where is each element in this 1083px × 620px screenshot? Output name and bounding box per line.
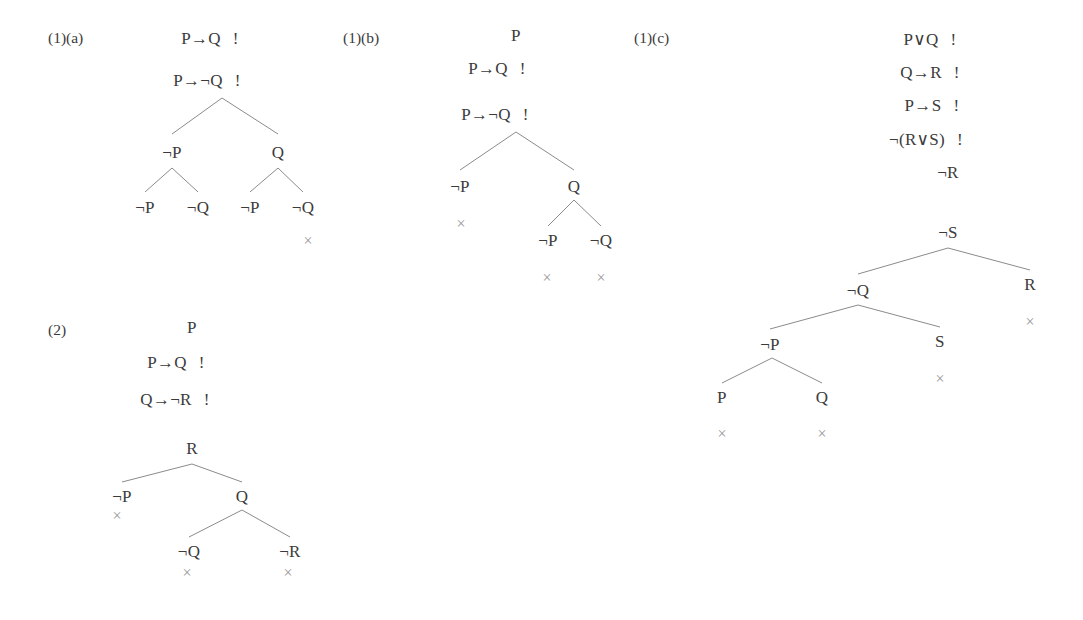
section-label-1a: (1)(a) [48, 30, 83, 46]
branch-closed-x-icon: × [542, 270, 551, 286]
premise-text: P→S [905, 96, 942, 115]
branch-line [516, 132, 574, 170]
premise-text: Q→R [900, 63, 942, 82]
branch-line [172, 98, 222, 134]
premise-text: P [511, 26, 521, 45]
tree-node-1c-3: S [935, 333, 945, 350]
tree-node-1b-2: ¬P [538, 232, 558, 249]
branch-closed-x-icon: × [717, 426, 726, 442]
branch-closed-x-icon: × [1025, 314, 1034, 330]
tree-node-1b-1: Q [568, 178, 581, 195]
section-label-2: (2) [48, 322, 66, 338]
branch-line [858, 305, 940, 327]
premise-text: R [186, 439, 198, 458]
tree-node-1a-4: ¬P [240, 199, 260, 216]
tree-node-1a-1: Q [272, 144, 285, 161]
branch-line [242, 510, 290, 537]
premise-1b-0: P [511, 27, 521, 44]
decomposed-flag: ! [204, 391, 210, 408]
decomposed-flag: ! [233, 30, 239, 47]
truth-tree-worksheet: (1)(a)P→Q!P→¬Q!¬PQ¬P¬Q¬P¬Q×(1)(b)PP→Q!P→… [0, 0, 1083, 620]
branch-line [172, 168, 198, 192]
premise-text: ¬R [937, 163, 959, 182]
premise-2-2: Q→¬R! [140, 391, 209, 408]
branch-line [460, 132, 516, 170]
branch-line [192, 464, 242, 482]
tree-branch-lines [0, 0, 1083, 620]
decomposed-flag: ! [235, 72, 241, 89]
premise-1a-1: P→¬Q! [173, 72, 241, 89]
branch-line [145, 168, 172, 192]
premise-text: Q→¬R [140, 390, 191, 409]
tree-node-1a-2: ¬P [135, 199, 155, 216]
branch-line [948, 248, 1030, 270]
premise-text: P [187, 318, 197, 337]
premise-1b-1: P→Q! [468, 60, 526, 77]
branch-line [770, 305, 858, 329]
branch-line [548, 200, 574, 226]
decomposed-flag: ! [953, 97, 959, 114]
premise-1b-2: P→¬Q! [461, 106, 529, 123]
branch-line [858, 248, 948, 274]
branch-line [189, 510, 242, 537]
tree-node-1c-4: P [717, 389, 727, 406]
premise-1c-3: ¬(R∨S)! [889, 131, 963, 148]
decomposed-flag: ! [954, 64, 960, 81]
premise-text: P→Q [468, 59, 508, 78]
tree-node-2-3: ¬R [279, 543, 301, 560]
tree-node-2-2: ¬Q [178, 543, 200, 560]
branch-closed-x-icon: × [112, 508, 121, 524]
branch-line [722, 358, 772, 383]
tree-node-1c-0: ¬Q [847, 282, 869, 299]
premise-1a-0: P→Q! [181, 30, 239, 47]
tree-node-1c-5: Q [816, 389, 829, 406]
section-label-1c: (1)(c) [634, 30, 669, 46]
decomposed-flag: ! [520, 60, 526, 77]
premise-1c-4: ¬R [937, 164, 959, 181]
premise-text: P∨Q [903, 30, 938, 49]
branch-closed-x-icon: × [456, 216, 465, 232]
tree-node-1a-3: ¬Q [187, 199, 209, 216]
branch-line [278, 168, 303, 192]
branch-line [250, 168, 278, 192]
premise-1c-5: ¬S [938, 224, 958, 241]
decomposed-flag: ! [523, 106, 529, 123]
premise-1c-1: Q→R! [900, 64, 960, 81]
decomposed-flag: ! [957, 131, 963, 148]
tree-node-1b-0: ¬P [450, 178, 470, 195]
branch-closed-x-icon: × [182, 565, 191, 581]
premise-text: ¬(R∨S) [889, 130, 945, 149]
section-label-1b: (1)(b) [343, 30, 379, 46]
premise-1c-2: P→S! [905, 97, 960, 114]
branch-line [122, 464, 192, 482]
premise-2-3: R [186, 440, 198, 457]
tree-node-2-1: Q [236, 488, 249, 505]
tree-node-1a-5: ¬Q [292, 199, 314, 216]
premise-text: P→¬Q [461, 105, 511, 124]
premise-text: ¬S [938, 223, 958, 242]
branch-closed-x-icon: × [596, 270, 605, 286]
branch-line [222, 98, 278, 134]
tree-node-1c-1: R [1024, 276, 1036, 293]
branch-closed-x-icon: × [935, 371, 944, 387]
tree-node-1b-3: ¬Q [590, 232, 612, 249]
premise-2-0: P [187, 319, 197, 336]
branch-line [772, 358, 822, 383]
premise-text: P→Q [147, 353, 187, 372]
premise-2-1: P→Q! [147, 354, 205, 371]
premise-1c-0: P∨Q! [903, 31, 956, 48]
tree-node-2-0: ¬P [112, 488, 132, 505]
branch-line [574, 200, 601, 226]
decomposed-flag: ! [199, 354, 205, 371]
premise-text: P→¬Q [173, 71, 223, 90]
branch-closed-x-icon: × [817, 426, 826, 442]
tree-node-1c-2: ¬P [760, 336, 780, 353]
premise-text: P→Q [181, 29, 221, 48]
branch-closed-x-icon: × [303, 233, 312, 249]
branch-closed-x-icon: × [283, 565, 292, 581]
decomposed-flag: ! [951, 31, 957, 48]
tree-node-1a-0: ¬P [162, 144, 182, 161]
